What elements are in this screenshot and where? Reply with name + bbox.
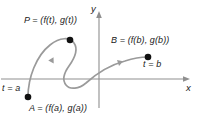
point-A-dot: [25, 94, 32, 101]
x-axis-arrowhead: [183, 76, 190, 82]
point-B-label: B = (f(b), g(b)): [111, 36, 169, 45]
y-axis-arrowhead: [96, 11, 102, 18]
parametric-curve-path: [28, 39, 148, 97]
y-axis-label: y: [91, 4, 96, 14]
point-P-label: P = (f(t), g(t)): [24, 16, 77, 25]
curve-direction-arrow-1: [48, 56, 56, 64]
point-P-dot: [67, 37, 74, 44]
parameter-label-t-equals-b: t = b: [143, 60, 161, 69]
parametric-curve-figure: P = (f(t), g(t)) B = (f(b), g(b)) t = b …: [0, 0, 199, 120]
parameter-label-t-equals-a: t = a: [2, 84, 20, 93]
point-A-label: A = (f(a), g(a)): [29, 104, 87, 113]
x-axis-label: x: [186, 83, 191, 93]
